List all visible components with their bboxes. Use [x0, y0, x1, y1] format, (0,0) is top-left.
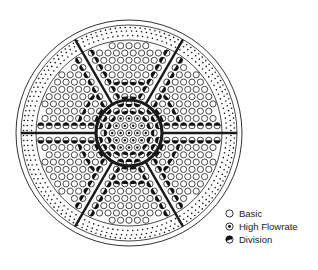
high-flowrate-circle-icon [225, 222, 234, 231]
legend-item-high-flowrate: High Flowrate [225, 220, 298, 233]
division-circle-icon [225, 235, 234, 244]
legend-label-high-flowrate: High Flowrate [239, 220, 298, 233]
legend-label-basic: Basic [239, 207, 262, 220]
basic-circle-icon [225, 209, 234, 218]
legend-item-division: Division [225, 233, 298, 246]
legend-label-division: Division [239, 233, 272, 246]
legend-item-basic: Basic [225, 207, 298, 220]
legend: Basic High Flowrate Division [225, 207, 298, 246]
